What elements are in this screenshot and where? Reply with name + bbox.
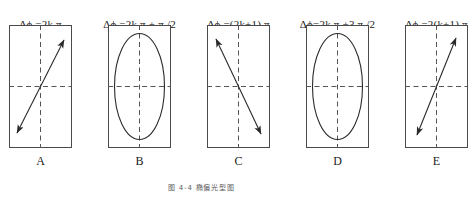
panel-b-caption: B: [135, 154, 143, 169]
polarization-figure: Δϕ =2k π A Δϕ =2k π + π /2: [0, 0, 476, 197]
panel-c: Δϕ =(2k+1) π C: [207, 17, 270, 148]
panel-b: Δϕ =2k π + π /2 B: [108, 17, 171, 148]
panel-e-graphic: [405, 25, 468, 148]
panel-b-graphic: [108, 25, 171, 148]
panel-e-caption: E: [433, 154, 440, 169]
panel-a-graphic: [9, 25, 72, 148]
panel-c-graphic: [207, 25, 270, 148]
panel-d-caption: D: [333, 154, 342, 169]
figure-caption: 图 4-4 椭偏光型图: [168, 182, 235, 192]
panel-d: Δϕ=2k π +3 π /2 D: [306, 17, 369, 148]
panel-c-caption: C: [234, 154, 242, 169]
panel-a: Δϕ =2k π A: [9, 17, 72, 148]
panel-d-graphic: [306, 25, 369, 148]
panel-a-caption: A: [36, 154, 45, 169]
panel-e: Δϕ =2(k+1) π E: [405, 17, 468, 148]
